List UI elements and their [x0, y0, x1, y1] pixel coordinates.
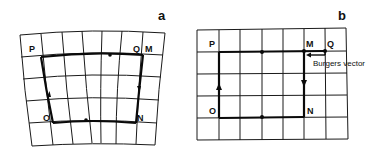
- circuit-midpoint-dot: [260, 50, 264, 54]
- arrow-down-icon: [301, 80, 307, 87]
- circuit-midpoint-dot: [84, 118, 88, 122]
- point-label-p: P: [29, 44, 35, 54]
- point-label-o: O: [209, 106, 216, 116]
- panel-a: a P: [20, 8, 166, 146]
- circuit-midpoint-dot: [108, 53, 112, 57]
- point-label-o: O: [43, 113, 50, 123]
- distorted-lattice-grid: [20, 31, 165, 146]
- point-label-m: M: [306, 39, 314, 49]
- point-label-p: P: [209, 39, 215, 49]
- point-label-m: M: [145, 44, 153, 54]
- point-m-dot: [302, 49, 306, 53]
- burgers-vector-label: Burgers vector: [313, 59, 365, 68]
- panel-a-label: a: [158, 8, 166, 23]
- point-label-q: Q: [133, 44, 140, 54]
- arrow-up-icon: [216, 83, 222, 90]
- panel-b-label: b: [338, 8, 346, 23]
- figure-canvas: a P: [0, 0, 392, 152]
- panel-b: b: [197, 8, 365, 140]
- point-label-q: Q: [327, 39, 334, 49]
- point-label-n: N: [137, 113, 144, 123]
- burgers-circuit-a: [41, 53, 143, 123]
- arrow-left-icon: [306, 53, 311, 58]
- point-label-n: N: [307, 106, 314, 116]
- circuit-midpoint-dot: [260, 115, 264, 119]
